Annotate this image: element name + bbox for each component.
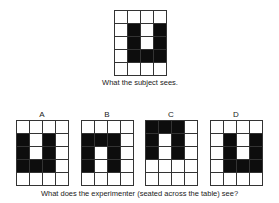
grid-cell bbox=[82, 160, 95, 173]
grid-cell bbox=[43, 134, 56, 147]
grid-cell bbox=[108, 173, 121, 186]
grid-cell bbox=[146, 134, 159, 147]
grid-cell bbox=[82, 134, 95, 147]
grid-cell bbox=[141, 37, 154, 50]
grid-cell bbox=[154, 24, 167, 37]
grid-cell bbox=[250, 160, 263, 173]
grid-cell bbox=[154, 63, 167, 76]
option-a-grid[interactable] bbox=[16, 120, 69, 186]
grid-cell bbox=[250, 173, 263, 186]
grid-cell bbox=[95, 134, 108, 147]
grid-cell bbox=[17, 173, 30, 186]
grid-cell bbox=[154, 50, 167, 63]
grid-cell bbox=[159, 134, 172, 147]
grid-cell bbox=[224, 121, 237, 134]
grid-cell bbox=[237, 147, 250, 160]
grid-cell bbox=[146, 121, 159, 134]
grid-cell bbox=[43, 160, 56, 173]
grid-cell bbox=[95, 173, 108, 186]
grid-cell bbox=[141, 24, 154, 37]
question-text: What does the experimenter (seated acros… bbox=[0, 189, 279, 198]
grid-cell bbox=[159, 121, 172, 134]
grid-cell bbox=[185, 134, 198, 147]
grid-cell bbox=[224, 134, 237, 147]
grid-cell bbox=[17, 121, 30, 134]
grid-cell bbox=[211, 173, 224, 186]
option-d-grid[interactable] bbox=[210, 120, 263, 186]
grid-cell bbox=[56, 173, 69, 186]
grid-cell bbox=[250, 134, 263, 147]
subject-grid bbox=[114, 10, 167, 76]
grid-cell bbox=[250, 121, 263, 134]
grid-cell bbox=[43, 147, 56, 160]
grid-cell bbox=[43, 173, 56, 186]
grid-cell bbox=[146, 173, 159, 186]
grid-cell bbox=[172, 160, 185, 173]
grid-cell bbox=[224, 160, 237, 173]
grid-cell bbox=[121, 134, 134, 147]
grid-cell bbox=[82, 173, 95, 186]
grid-cell bbox=[128, 24, 141, 37]
grid-cell bbox=[172, 173, 185, 186]
grid-cell bbox=[56, 160, 69, 173]
grid-cell bbox=[43, 121, 56, 134]
grid-cell bbox=[56, 147, 69, 160]
grid-cell bbox=[30, 134, 43, 147]
grid-cell bbox=[211, 134, 224, 147]
option-c-label: C bbox=[145, 110, 197, 119]
grid-cell bbox=[250, 147, 263, 160]
grid-cell bbox=[211, 121, 224, 134]
grid-cell bbox=[108, 134, 121, 147]
grid-cell bbox=[121, 121, 134, 134]
grid-cell bbox=[237, 173, 250, 186]
grid-cell bbox=[211, 147, 224, 160]
option-b-grid[interactable] bbox=[81, 120, 134, 186]
grid-cell bbox=[115, 24, 128, 37]
grid-cell bbox=[30, 160, 43, 173]
grid-cell bbox=[159, 147, 172, 160]
grid-cell bbox=[185, 147, 198, 160]
grid-cell bbox=[30, 147, 43, 160]
option-a-label: A bbox=[16, 110, 68, 119]
grid-cell bbox=[108, 121, 121, 134]
grid-cell bbox=[211, 160, 224, 173]
grid-cell bbox=[172, 147, 185, 160]
grid-cell bbox=[115, 11, 128, 24]
grid-cell bbox=[172, 134, 185, 147]
grid-cell bbox=[128, 50, 141, 63]
grid-cell bbox=[237, 134, 250, 147]
grid-cell bbox=[121, 147, 134, 160]
grid-cell bbox=[121, 160, 134, 173]
grid-cell bbox=[82, 147, 95, 160]
grid-cell bbox=[154, 37, 167, 50]
grid-cell bbox=[17, 134, 30, 147]
grid-cell bbox=[154, 11, 167, 24]
grid-cell bbox=[128, 63, 141, 76]
grid-cell bbox=[185, 121, 198, 134]
grid-cell bbox=[115, 63, 128, 76]
grid-cell bbox=[95, 160, 108, 173]
option-d-label: D bbox=[210, 110, 262, 119]
grid-cell bbox=[185, 173, 198, 186]
grid-cell bbox=[115, 37, 128, 50]
grid-cell bbox=[146, 147, 159, 160]
option-b-label: B bbox=[81, 110, 133, 119]
grid-cell bbox=[237, 160, 250, 173]
subject-caption: What the subject sees. bbox=[100, 78, 180, 87]
grid-cell bbox=[30, 121, 43, 134]
grid-cell bbox=[141, 50, 154, 63]
grid-cell bbox=[17, 147, 30, 160]
grid-cell bbox=[108, 147, 121, 160]
grid-cell bbox=[108, 160, 121, 173]
grid-cell bbox=[159, 160, 172, 173]
grid-cell bbox=[141, 63, 154, 76]
grid-cell bbox=[146, 160, 159, 173]
grid-cell bbox=[159, 173, 172, 186]
grid-cell bbox=[224, 147, 237, 160]
grid-cell bbox=[141, 11, 154, 24]
grid-cell bbox=[128, 37, 141, 50]
option-c-grid[interactable] bbox=[145, 120, 198, 186]
grid-cell bbox=[56, 121, 69, 134]
grid-cell bbox=[115, 50, 128, 63]
grid-cell bbox=[56, 134, 69, 147]
